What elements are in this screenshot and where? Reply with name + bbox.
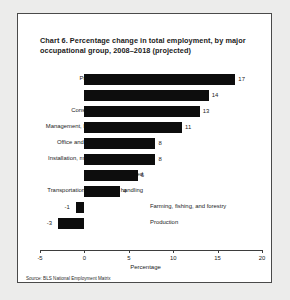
x-axis-tick-label: -5 [37, 255, 42, 261]
bar [84, 106, 199, 117]
x-axis-tick [129, 250, 130, 253]
bar [58, 218, 85, 229]
x-axis-title: Percentage [18, 264, 273, 270]
chart-panel: Chart 6. Percentage change in total empl… [17, 13, 272, 283]
bar [84, 138, 155, 149]
bar [84, 186, 120, 197]
bar-row: Office and administrative support8 [18, 136, 271, 152]
bar [84, 122, 182, 133]
bar [84, 170, 137, 181]
bar-category-label: Production [150, 219, 178, 225]
bar-row: Construction and extraction13 [18, 104, 271, 120]
bar [84, 154, 155, 165]
bar-row: Sales and related6 [18, 168, 271, 184]
x-axis-tick-label: 0 [83, 255, 86, 261]
bar-row: Installation, maintenance, and repair8 [18, 152, 271, 168]
plot-area: Professional and related17Service14Const… [18, 72, 271, 250]
bar-value-label: 14 [212, 92, 219, 98]
x-axis-tick [262, 250, 263, 253]
bar-value-label: 8 [158, 140, 161, 146]
bar-category-label: Farming, fishing, and forestry [150, 203, 226, 209]
x-axis-tick [40, 250, 41, 253]
bar-value-label: -3 [47, 220, 52, 226]
x-axis-tick-label: 10 [170, 255, 177, 261]
x-axis-tick [84, 250, 85, 253]
bar-row: Production-3 [18, 216, 271, 232]
bar-value-label: 17 [238, 76, 245, 82]
bar-value-label: 4 [123, 188, 126, 194]
x-axis-line [40, 250, 262, 251]
bar-row: Service14 [18, 88, 271, 104]
x-axis-tick-label: 5 [127, 255, 130, 261]
source-note: Source: BLS National Employment Matrix [26, 276, 111, 281]
x-axis-tick-label: 15 [214, 255, 221, 261]
bar [84, 74, 235, 85]
chart-title: Chart 6. Percentage change in total empl… [40, 36, 250, 55]
bar-value-label: 11 [185, 124, 191, 130]
bar-value-label: 8 [158, 156, 161, 162]
bar-value-label: -1 [65, 204, 70, 210]
bar-value-label: 6 [141, 172, 144, 178]
bar-row: Management, business, and financial11 [18, 120, 271, 136]
bar-row: Farming, fishing, and forestry-1 [18, 200, 271, 216]
bar-row: Transportation and material handling4 [18, 184, 271, 200]
bar-value-label: 13 [203, 108, 210, 114]
x-axis-tick [218, 250, 219, 253]
bar [76, 202, 85, 213]
x-axis-tick-label: 20 [259, 255, 266, 261]
bar-row: Professional and related17 [18, 72, 271, 88]
x-axis-tick [173, 250, 174, 253]
bar [84, 90, 208, 101]
